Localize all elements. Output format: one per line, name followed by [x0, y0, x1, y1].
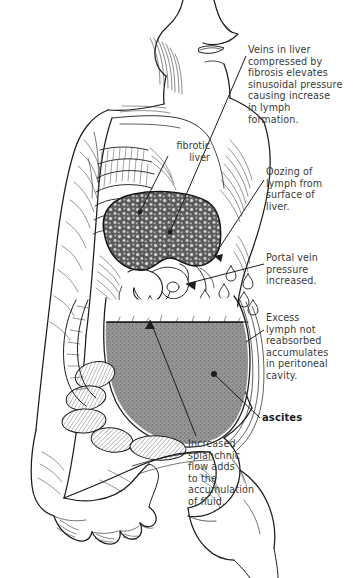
- callout-oozing-of-lymph: Oozing of lymph from surface of liver.: [266, 166, 352, 212]
- label-fibrotic-liver: fibrotic liver: [148, 140, 210, 163]
- dot-fibrotic-liver: [138, 210, 143, 215]
- dot-ascites: [211, 371, 217, 377]
- dot-veins-in-liver: [167, 229, 172, 234]
- callout-increased-splanchnic-flow: Increased splanchnic flow adds to the ac…: [188, 438, 283, 508]
- callout-portal-vein-pressure: Portal vein pressure increased.: [266, 252, 352, 287]
- label-ascites: ascites: [262, 412, 342, 424]
- callout-excess-lymph: Excess lymph not reabsorbed accumulates …: [266, 312, 352, 382]
- fibrotic-liver: [103, 192, 220, 271]
- callout-veins-in-liver: Veins in liver compressed by fibrosis el…: [248, 44, 353, 125]
